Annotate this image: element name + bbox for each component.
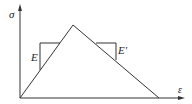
loading-modulus-label: E bbox=[31, 52, 38, 63]
y-axis-label: σ bbox=[9, 9, 14, 20]
softening-slope-triangle bbox=[96, 43, 116, 60]
x-axis-arrow-icon bbox=[178, 96, 185, 100]
x-axis-label: ε bbox=[178, 85, 182, 95]
stress-strain-diagram: σ ε E E' bbox=[0, 0, 192, 104]
softening-modulus-label: E' bbox=[118, 45, 127, 56]
diagram-canvas bbox=[0, 0, 192, 104]
y-axis-arrow-icon bbox=[18, 4, 22, 11]
stress-strain-curve bbox=[20, 25, 159, 98]
